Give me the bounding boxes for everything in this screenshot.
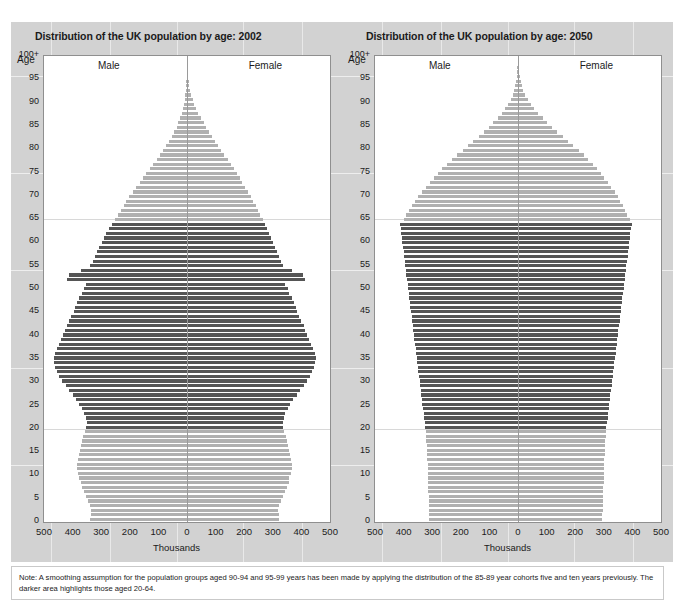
bar-male (404, 250, 518, 253)
bar-male (133, 190, 187, 193)
bar-male (102, 241, 187, 244)
bar-female (187, 287, 288, 290)
bar-female (187, 218, 263, 221)
bar-female (518, 472, 604, 475)
bar-female (187, 227, 267, 230)
bar-male (81, 481, 187, 484)
bar-male (126, 200, 187, 203)
bar-male (405, 264, 518, 267)
bar-male (406, 213, 518, 216)
bar-male (73, 393, 187, 396)
bar-male (424, 412, 518, 415)
bar-female (187, 163, 231, 166)
bar-female (518, 361, 614, 364)
bar-male (457, 153, 518, 156)
bar-female (187, 347, 313, 350)
y-axis-tick: 90 (13, 96, 39, 106)
bar-female (518, 209, 625, 212)
bar-female (518, 430, 606, 433)
bar-female (518, 172, 601, 175)
bar-male (63, 333, 187, 336)
bar-female (518, 375, 613, 378)
bar-male (109, 227, 187, 230)
bar-female (187, 449, 289, 452)
y-axis-tick: 35 (13, 352, 39, 362)
bar-female (187, 481, 289, 484)
bar-male (416, 347, 518, 350)
bar-female (518, 319, 620, 322)
bar-male (91, 509, 187, 512)
bar-female (187, 306, 296, 309)
bar-female (187, 338, 309, 341)
bar-male (420, 384, 518, 387)
bar-female (187, 255, 279, 258)
bar-male (121, 209, 187, 212)
bar-female (518, 481, 604, 484)
bar-male (400, 223, 518, 226)
bar-male (57, 370, 187, 373)
chart-panel-2050: Distribution of the UK population by age… (342, 22, 673, 562)
bar-female (187, 333, 307, 336)
bar-male (414, 333, 518, 336)
y-axis-tick: 90 (344, 96, 370, 106)
bar-male (434, 176, 518, 179)
y-axis-tick: 5 (344, 492, 370, 502)
bar-female (187, 121, 204, 124)
bar-male (112, 223, 187, 226)
bar-female (187, 472, 291, 475)
bar-male (143, 176, 187, 179)
bar-female (518, 246, 629, 249)
bar-male (79, 476, 187, 479)
bar-female (518, 255, 628, 258)
bar-male (473, 140, 518, 143)
bar-male (54, 356, 187, 359)
bar-male (78, 472, 187, 475)
bar-male (421, 393, 518, 396)
bar-female (187, 296, 292, 299)
bar-female (518, 398, 610, 401)
y-axis-tick: 20 (344, 422, 370, 432)
bar-female (187, 453, 290, 456)
bar-male (124, 204, 187, 207)
bar-female (518, 186, 611, 189)
bar-male (412, 204, 518, 207)
bar-female (518, 149, 579, 152)
bar-female (187, 319, 301, 322)
bar-male (401, 232, 518, 235)
bar-female (518, 338, 617, 341)
bar-male (115, 218, 187, 221)
bar-male (69, 319, 187, 322)
bar-female (518, 296, 622, 299)
chart-title-2002: Distribution of the UK population by age… (35, 30, 261, 42)
bar-male (426, 439, 518, 442)
bar-female (518, 490, 603, 493)
bar-male (493, 121, 518, 124)
bar-female (518, 379, 612, 382)
bar-female (518, 403, 609, 406)
bar-male (65, 329, 187, 332)
bar-female (187, 426, 283, 429)
bar-female (518, 356, 615, 359)
bar-female (518, 370, 613, 373)
bar-male (90, 264, 187, 267)
bar-male (417, 356, 518, 359)
bar-male (412, 319, 518, 322)
bar-female (518, 112, 538, 115)
plot-area-2050: Male Female (374, 55, 662, 523)
bar-female (518, 486, 603, 489)
bar-male (415, 200, 518, 203)
bar-male (75, 306, 187, 309)
bar-female (187, 467, 292, 470)
bar-female (187, 324, 304, 327)
bar-female (187, 190, 248, 193)
bar-male (505, 107, 518, 110)
y-axis-tick: 15 (13, 445, 39, 455)
bar-male (413, 329, 518, 332)
bar-male (428, 486, 518, 489)
y-axis-tick: 75 (13, 166, 39, 176)
bar-female (187, 112, 198, 115)
y-axis-tick: 70 (344, 189, 370, 199)
bar-female (187, 329, 305, 332)
y-axis-tick: 20 (13, 422, 39, 432)
bar-male (67, 278, 187, 281)
